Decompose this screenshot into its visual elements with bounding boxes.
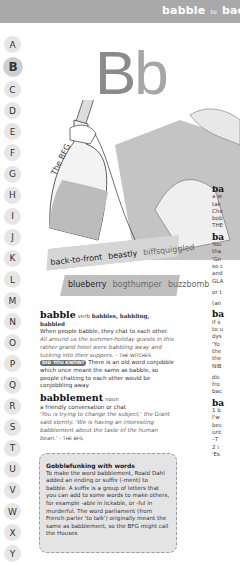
alphabet-tab-y[interactable]: Y: [4, 545, 21, 562]
alphabet-tab-m[interactable]: M: [4, 292, 21, 309]
clipped-line: ba: [212, 234, 252, 241]
did-you-know-badge: DID YOU KNOW?: [40, 360, 86, 366]
clipped-line: ba: [212, 186, 252, 193]
entry-babblement: babblement noun a friendly conversation …: [40, 394, 175, 442]
alphabet-tab-g[interactable]: G: [4, 166, 21, 183]
quote-source: – THE WITCHES: [116, 353, 151, 358]
clipped-line: and: [212, 270, 252, 277]
alphabet-tab-a[interactable]: A: [4, 36, 21, 53]
alphabet-tab-n[interactable]: N: [4, 313, 21, 330]
big-letter-lower: b: [134, 38, 166, 107]
page-header: babbletobac: [0, 0, 240, 23]
word-strip-row-2: blueberrybogthumperbuzzbomb: [68, 280, 215, 289]
alphabet-tab-h[interactable]: H: [4, 187, 21, 204]
clipped-line: bob: [212, 215, 252, 222]
running-head-to: to: [210, 8, 216, 15]
alphabet-tab-i[interactable]: I: [4, 208, 21, 225]
next-column-clipped: baa wtakChebobTHEbaYoutha'Gnso candGLAor…: [212, 186, 252, 458]
clipped-line: –T: [212, 436, 252, 443]
clipped-line: Che: [212, 208, 252, 215]
clipped-line: 2 i: [212, 444, 252, 451]
clipped-line: 1 b: [212, 407, 252, 414]
clipped-line: unt: [212, 429, 252, 436]
alphabet-tab-r[interactable]: R: [4, 398, 21, 415]
clipped-line: or t: [212, 289, 252, 296]
alphabet-tab-u[interactable]: U: [4, 461, 21, 478]
quote-source: – THE BFG: [59, 436, 83, 441]
part-of-speech: verb: [78, 313, 90, 319]
alphabet-tab-l[interactable]: L: [4, 271, 21, 288]
clipped-line: 'Yo: [212, 341, 252, 348]
definition: When people babble, they chat to each ot…: [40, 328, 168, 334]
clipped-line: dys: [212, 333, 252, 340]
example-quote: All around us the summer-holiday guests …: [40, 336, 174, 357]
section-letter: Bb: [95, 42, 167, 104]
clipped-line: the: [212, 348, 252, 355]
part-of-speech: noun: [105, 396, 119, 402]
alphabet-tab-w[interactable]: W: [4, 503, 21, 520]
gobblefunking-box: Gobblefunking with words To make the wor…: [39, 453, 177, 553]
headword: babblement: [40, 392, 103, 403]
clipped-line: so c: [212, 263, 252, 270]
clipped-line: 'Gn: [212, 256, 252, 263]
clipped-line: NIB: [212, 363, 252, 370]
alphabet-tab-k[interactable]: K: [4, 250, 21, 267]
entries-column: babble verb babbles, babbling, babbled W…: [40, 311, 175, 442]
alphabet-tab-b[interactable]: B: [3, 57, 23, 77]
box-title: Gobblefunking with words: [46, 462, 170, 470]
entry-babble: babble verb babbles, babbling, babbled W…: [40, 311, 175, 390]
alphabet-tab-c[interactable]: C: [4, 81, 21, 98]
alphabet-tab-s[interactable]: S: [4, 419, 21, 436]
alphabet-tab-e[interactable]: E: [4, 123, 21, 140]
running-head: babbletobac: [162, 4, 244, 17]
clipped-line: ba: [212, 400, 252, 407]
clipped-line: fro: [212, 381, 252, 388]
clipped-line: tak: [212, 201, 252, 208]
clipped-line: the: [212, 355, 252, 362]
clipped-line: If s: [212, 319, 252, 326]
running-head-from: babble: [162, 4, 205, 17]
running-head-end: bac: [222, 4, 244, 17]
definition: a friendly conversation or chat: [40, 404, 126, 410]
clipped-line: GLA: [212, 278, 252, 285]
clipped-line: bec: [212, 422, 252, 429]
clipped-line: a w: [212, 193, 252, 200]
alphabet-tab-p[interactable]: P: [4, 355, 21, 372]
clipped-line: (an: [212, 300, 252, 307]
word-strip-item[interactable]: buzzbomb: [168, 280, 209, 289]
clipped-line: THE: [212, 222, 252, 229]
headword: babble: [40, 309, 76, 320]
clipped-line: to u: [212, 326, 252, 333]
alphabet-tab-x[interactable]: X: [4, 524, 21, 541]
big-letter-upper: B: [95, 38, 134, 107]
alphabet-tab-o[interactable]: O: [4, 334, 21, 351]
clipped-line: bac: [212, 388, 252, 395]
alphabet-tab-t[interactable]: T: [4, 440, 21, 457]
alphabet-tab-q[interactable]: Q: [4, 377, 21, 394]
alphabet-tab-f[interactable]: F: [4, 144, 21, 161]
word-strip-item[interactable]: bogthumper: [112, 280, 161, 289]
bottle-illustration: [40, 100, 240, 260]
clipped-line: ba: [212, 311, 252, 318]
word-strip-item[interactable]: blueberry: [68, 280, 106, 289]
box-text: To make the word babblement, Roald Dahl …: [46, 470, 170, 538]
clipped-line: tha: [212, 248, 252, 255]
alphabet-tab-j[interactable]: J: [4, 229, 21, 246]
clipped-line: dic: [212, 374, 252, 381]
clipped-line: You: [212, 241, 252, 248]
clipped-line: 'Es: [212, 451, 252, 458]
alphabet-tab-d[interactable]: D: [4, 102, 21, 119]
alphabet-index: ABCDEFGHIJKLMNOPQRSTUVWXY: [2, 36, 24, 566]
clipped-line: I'w: [212, 414, 252, 421]
alphabet-tab-v[interactable]: V: [4, 482, 21, 499]
